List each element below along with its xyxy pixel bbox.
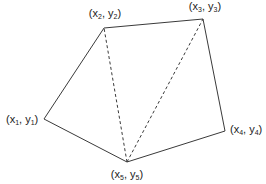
diagonal-p5-p3 bbox=[127, 19, 203, 162]
edge-p4-p5 bbox=[127, 131, 225, 162]
vertex-label-p1: (x1, y1) bbox=[6, 113, 38, 126]
vertex-label-p3: (x3, y3) bbox=[189, 0, 221, 13]
vertex-label-p5: (x5, y5) bbox=[111, 168, 143, 181]
polygon-diagram: (x1, y1)(x2, y2)(x3, y3)(x4, y4)(x5, y5) bbox=[0, 0, 266, 184]
vertex-label-p4: (x4, y4) bbox=[230, 123, 262, 136]
diagonal-p5-p2 bbox=[104, 28, 127, 162]
edge-p3-p4 bbox=[203, 19, 225, 131]
vertex-label-p2: (x2, y2) bbox=[89, 7, 121, 20]
edge-p5-p1 bbox=[44, 119, 127, 162]
edge-p2-p3 bbox=[104, 19, 203, 28]
edge-p1-p2 bbox=[44, 28, 104, 119]
